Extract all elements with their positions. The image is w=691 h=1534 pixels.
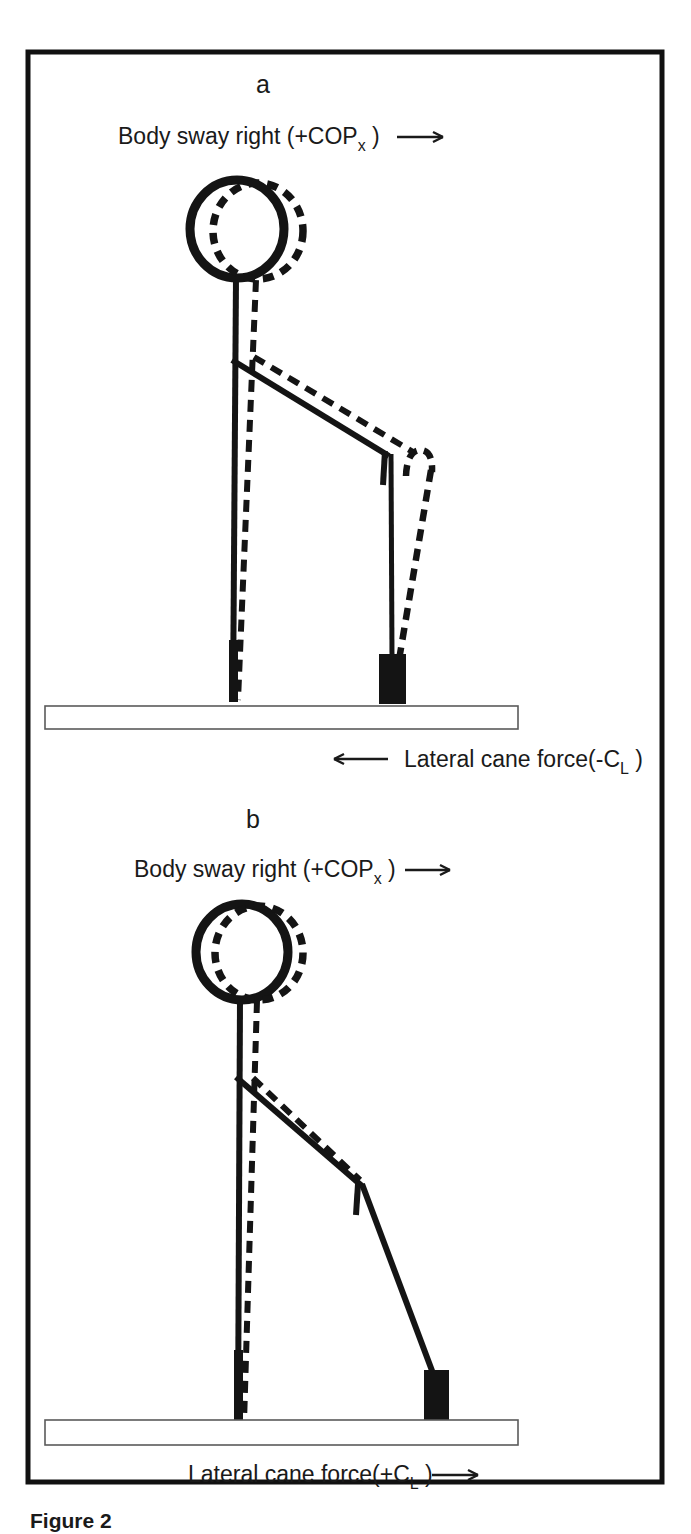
- panel-a-force-tail: ): [629, 746, 643, 772]
- figure-caption: Figure 2: [30, 1509, 112, 1532]
- panel-b-cane-tip-block: [424, 1370, 449, 1422]
- panel-a-solid-body-line: [233, 278, 236, 700]
- figure-container: a Body sway right (+COPx ): [0, 0, 691, 1534]
- panel-a-floor-bar: [45, 706, 518, 729]
- figure-svg: a Body sway right (+COPx ): [0, 0, 691, 1534]
- panel-b-force-text: Lateral cane force(+CL ): [188, 1461, 433, 1492]
- panel-b-solid-hand-hook: [356, 1184, 358, 1215]
- panel-a-sway-tail: ): [366, 123, 380, 149]
- panel-b-force-tail: ): [419, 1461, 433, 1487]
- panel-a-sway-main: Body sway right (+COP: [118, 123, 358, 149]
- panel-a-force-main: Lateral cane force(-C: [404, 746, 620, 772]
- panel-a-sway-sub: x: [358, 137, 366, 154]
- panel-a-force-sub: L: [620, 760, 629, 777]
- panel-b-letter: b: [246, 805, 260, 833]
- panel-a-foot-block: [229, 640, 238, 702]
- panel-b-sway-main: Body sway right (+COP: [134, 856, 374, 882]
- panel-a-solid-cane: [391, 454, 392, 658]
- panel-a-letter: a: [256, 70, 270, 98]
- panel-b-force-sub: L: [410, 1475, 419, 1492]
- panel-b-sway-tail: ): [382, 856, 396, 882]
- panel-a-solid-hand-hook: [383, 451, 385, 485]
- panel-b-foot-block: [234, 1350, 243, 1422]
- panel-b-floor-bar: [45, 1420, 518, 1445]
- panel-b-sway-sub: x: [374, 870, 382, 887]
- panel-a-cane-tip-block: [379, 654, 406, 704]
- panel-b-force-main: Lateral cane force(+C: [188, 1461, 410, 1487]
